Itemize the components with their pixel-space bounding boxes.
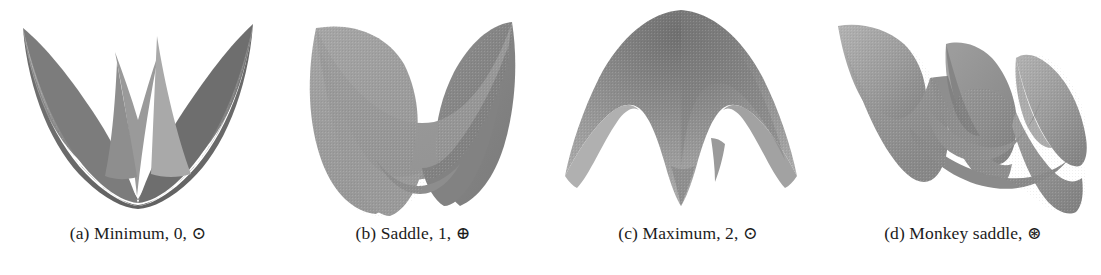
surface-plot-saddle — [279, 0, 547, 222]
subfigure-caption-maximum: (c) Maximum, 2, ⊙ — [618, 224, 757, 243]
surface-plot-monkey-saddle — [829, 0, 1097, 222]
maximum-texture — [565, 10, 797, 206]
monkey-saddle-surface-svg — [830, 0, 1096, 222]
subfigure-row: (a) Minimum, 0, ⊙ — [0, 0, 1101, 275]
subfigure-caption-saddle: (b) Saddle, 1, ⊕ — [356, 224, 471, 243]
subfigure-caption-monkey-saddle: (d) Monkey saddle, ⊛ — [884, 224, 1042, 243]
maximum-secondary-peak — [711, 138, 725, 182]
figure-root: (a) Minimum, 0, ⊙ — [0, 0, 1101, 275]
subfigure-saddle: (b) Saddle, 1, ⊕ — [279, 0, 547, 275]
subfigure-monkey-saddle: (d) Monkey saddle, ⊛ — [829, 0, 1097, 275]
surface-plot-maximum — [554, 0, 822, 222]
saddle-surface-svg — [280, 0, 546, 222]
minimum-surface-svg — [5, 0, 271, 222]
surface-plot-minimum — [4, 0, 272, 222]
subfigure-minimum: (a) Minimum, 0, ⊙ — [4, 0, 272, 275]
subfigure-maximum: (c) Maximum, 2, ⊙ — [554, 0, 822, 275]
maximum-surface-svg — [555, 0, 821, 222]
subfigure-caption-minimum: (a) Minimum, 0, ⊙ — [70, 224, 206, 243]
